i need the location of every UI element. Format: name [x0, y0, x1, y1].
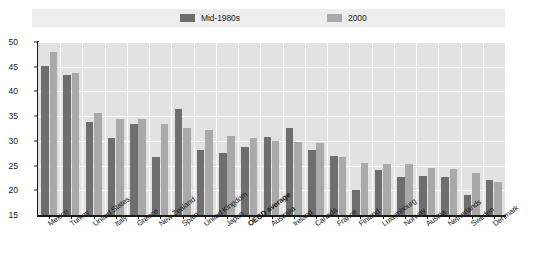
gridline-vertical	[438, 42, 439, 215]
chart-legend: Mid-1980s 2000	[32, 9, 505, 27]
bar	[94, 113, 102, 215]
bar	[63, 75, 71, 215]
bar	[450, 169, 458, 215]
y-axis: 1520253035404550	[0, 0, 18, 280]
bar-chart: Mid-1980s 2000 1520253035404550 MexicoTu…	[0, 0, 534, 280]
legend-label-2000: 2000	[348, 13, 367, 23]
bar	[41, 66, 49, 215]
y-axis-tick-label: 25	[2, 161, 18, 171]
y-axis-tick-label: 15	[2, 210, 18, 220]
y-axis-tick-mark	[34, 116, 37, 117]
gridline-vertical	[216, 42, 217, 215]
bar	[383, 164, 391, 215]
legend-entry-2000: 2000	[327, 9, 367, 27]
gridline	[38, 67, 505, 68]
y-axis-tick-label: 20	[2, 185, 18, 195]
bar	[197, 150, 205, 215]
gridline-vertical	[194, 42, 195, 215]
gridline-vertical	[105, 42, 106, 215]
y-axis-tick-mark	[34, 165, 37, 166]
gridline-vertical	[327, 42, 328, 215]
bar	[86, 122, 94, 215]
bar	[316, 143, 324, 215]
y-axis-tick-mark	[34, 91, 37, 92]
gridline	[38, 91, 505, 92]
gridline-vertical	[483, 42, 484, 215]
legend-swatch-2000	[327, 14, 342, 22]
gridline-vertical	[461, 42, 462, 215]
y-axis-tick-mark	[34, 190, 37, 191]
bar	[72, 73, 80, 215]
bar	[294, 142, 302, 215]
gridline-vertical	[349, 42, 350, 215]
y-axis-tick-label: 40	[2, 86, 18, 96]
gridline-vertical	[149, 42, 150, 215]
y-axis-tick-mark	[34, 140, 37, 141]
y-axis-tick-mark	[34, 66, 37, 67]
bar	[361, 163, 369, 215]
gridline-vertical	[372, 42, 373, 215]
y-axis-tick-label: 35	[2, 111, 18, 121]
legend-swatch-mid-1980s	[180, 14, 195, 22]
y-axis-tick-label: 45	[2, 62, 18, 72]
bar	[308, 150, 316, 215]
gridline-vertical	[260, 42, 261, 215]
gridline-vertical	[171, 42, 172, 215]
bar	[286, 128, 294, 215]
bar	[175, 109, 183, 215]
gridline-vertical	[305, 42, 306, 215]
bar	[138, 119, 146, 215]
gridline-vertical	[394, 42, 395, 215]
bar	[241, 147, 249, 215]
bar	[428, 168, 436, 215]
y-axis-tick-label: 30	[2, 136, 18, 146]
gridline-vertical	[283, 42, 284, 215]
legend-entry-mid-1980s: Mid-1980s	[180, 9, 240, 27]
gridline	[38, 116, 505, 117]
gridline-vertical	[127, 42, 128, 215]
bar	[50, 52, 58, 215]
bar	[161, 124, 169, 215]
gridline	[38, 42, 505, 43]
gridline-vertical	[238, 42, 239, 215]
bar	[339, 157, 347, 215]
bar	[250, 138, 258, 215]
bar	[494, 182, 502, 215]
legend-label-mid-1980s: Mid-1980s	[201, 13, 240, 23]
gridline-vertical	[416, 42, 417, 215]
gridline-vertical	[82, 42, 83, 215]
gridline-vertical	[60, 42, 61, 215]
y-axis-tick-mark	[34, 42, 37, 43]
plot-area	[38, 42, 505, 215]
bar	[205, 130, 213, 216]
y-axis-tick-label: 50	[2, 37, 18, 47]
